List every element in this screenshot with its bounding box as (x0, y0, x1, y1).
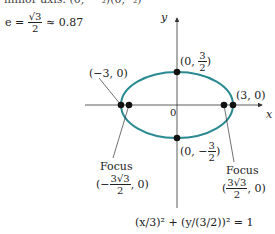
top-covertex-label: (0, 32) (180, 50, 211, 73)
left-vertex-label: (−3, 0) (89, 67, 128, 80)
y-axis-label: y (161, 11, 167, 24)
right-vertex-label: (3, 0) (236, 89, 266, 102)
left-vertex-leader (99, 78, 121, 105)
origin-label: 0 (170, 107, 176, 118)
right-focus-point (221, 102, 228, 109)
left-focus-coords: (−3√32, 0) (96, 173, 149, 196)
left-focus-title: Focus (100, 160, 133, 173)
ellipse-equation: (x/3)² + (y/(3/2))² = 1 (135, 216, 254, 229)
left-focus-point (126, 102, 133, 109)
bottom-covertex-label: (0, −32) (180, 140, 220, 163)
left-focus-leader (113, 105, 129, 158)
right-focus-coords: (3√32, 0) (222, 177, 266, 200)
right-vertex-point (230, 102, 237, 109)
left-vertex-point (118, 102, 125, 109)
x-axis-label: x (266, 108, 272, 121)
right-focus-title: Focus (226, 164, 259, 177)
right-focus-leader (224, 105, 234, 162)
